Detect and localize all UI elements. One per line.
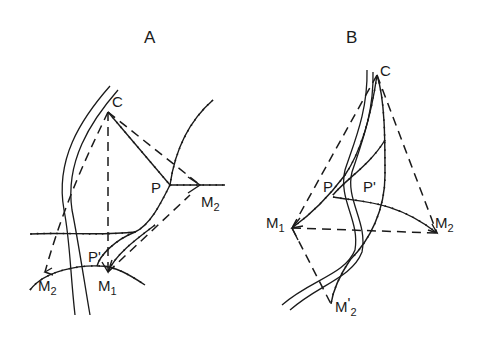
panel-a: A xyxy=(30,28,225,315)
panel-a-hatched-paths xyxy=(30,100,225,290)
panel-a-point-m2: M2 xyxy=(201,193,220,213)
panel-a-dashed-lines xyxy=(45,112,200,272)
panel-a-point-m1: M1 xyxy=(98,277,117,297)
diagram-figure: A xyxy=(0,0,483,337)
panel-a-point-p-prime: P' xyxy=(88,248,101,265)
panel-a-point-p: P xyxy=(151,179,161,196)
panel-b-title: B xyxy=(346,28,357,47)
panel-b-point-p-prime: P' xyxy=(363,178,376,195)
panel-b: B C P P' xyxy=(266,28,454,318)
panel-b-point-m2-prime: M'2 xyxy=(335,294,357,318)
panel-b-point-m1: M1 xyxy=(266,214,285,234)
panel-b-point-c: C xyxy=(380,62,391,79)
panel-b-point-m2: M2 xyxy=(435,214,454,234)
panel-a-point-m2-prime: M2 xyxy=(38,277,57,297)
panel-b-point-p: P xyxy=(323,178,333,195)
panel-a-title: A xyxy=(144,28,156,47)
panel-a-point-c: C xyxy=(112,93,123,110)
